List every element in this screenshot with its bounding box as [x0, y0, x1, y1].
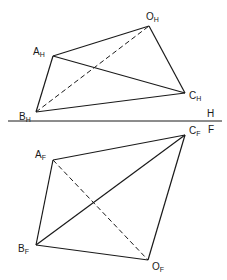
- diagram-svg: OHAHBHCH H F CFAFBFOF: [0, 0, 227, 280]
- edge-co-front: [148, 135, 185, 260]
- hidden-edge-ao-front: [53, 160, 148, 260]
- fold-label-h: H: [207, 108, 214, 119]
- front-view: CFAFBFOF: [18, 125, 201, 273]
- edge-ac-top: [53, 56, 185, 93]
- vertex-label-a-top: AH: [33, 46, 45, 58]
- edge-ab-top: [36, 56, 53, 112]
- edge-ab-front: [36, 160, 53, 245]
- vertex-label-c-top: CH: [189, 90, 201, 102]
- orthographic-projection-diagram: OHAHBHCH H F CFAFBFOF: [0, 0, 227, 280]
- vertex-label-c-front: CF: [189, 125, 201, 137]
- edge-bc-top: [36, 93, 185, 112]
- edge-bo-front: [36, 245, 148, 260]
- edge-oc-top: [149, 26, 185, 93]
- edge-ac-front: [53, 135, 185, 160]
- hidden-edge-bo-top: [36, 26, 149, 112]
- edge-ao-top: [53, 26, 149, 56]
- fold-label-f: F: [208, 124, 214, 135]
- edge-bc-front: [36, 135, 185, 245]
- top-view: OHAHBHCH: [19, 11, 201, 123]
- vertex-label-o-top: OH: [146, 11, 159, 23]
- vertex-label-o-front: OF: [152, 261, 164, 273]
- vertex-label-a-front: AF: [35, 149, 46, 161]
- vertex-label-b-front: BF: [18, 243, 29, 255]
